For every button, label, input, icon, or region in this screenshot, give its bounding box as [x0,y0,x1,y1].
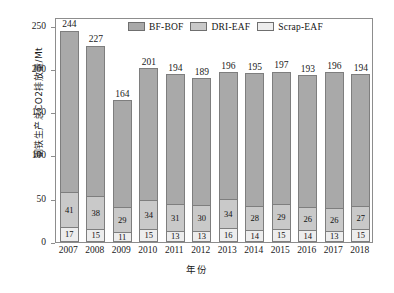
bar-column[interactable]: 1943113 [166,74,185,242]
bar-segment-label: 34 [224,210,233,219]
bar-total-label: 195 [248,63,262,73]
bar-total-label: 194 [354,64,368,74]
legend-label: DRI-EAF [211,22,250,32]
bar-column[interactable]: 1893013 [192,78,211,242]
bar-segment-bf-bof [272,72,291,204]
bar-segment-bf-bof [139,68,158,200]
legend-label: Scrap-EAF [278,22,323,32]
bar-segment-dri-eaf: 29 [113,207,132,232]
co2-emissions-stacked-bar-chart: 钢铁生产总CO2排放量/Mt 050100150200250 244411722… [0,0,394,293]
bar-segment-dri-eaf: 30 [192,205,211,231]
bar-column[interactable]: 1952814 [245,73,264,242]
bar-total-label: 196 [221,62,235,72]
bar-segment-scrap-eaf: 15 [272,229,291,242]
bar-segment-dri-eaf: 27 [351,206,370,229]
bar-segment-label: 31 [171,214,180,223]
bar-series-container: 2444117227381516429112013415194311318930… [56,19,372,242]
bar-segment-scrap-eaf: 11 [113,232,132,242]
x-tick-label: 2011 [165,246,184,256]
legend-swatch-icon [257,22,274,31]
bar-segment-label: 28 [251,214,260,223]
bar-segment-label: 34 [145,211,154,220]
bar-stack: 2911 [113,100,132,242]
legend-swatch-icon [190,22,207,31]
bar-segment-dri-eaf: 28 [245,206,264,230]
legend-item-bf-bof: BF-BOF [128,22,183,32]
bar-column[interactable]: 1962613 [325,72,344,242]
bar-segment-scrap-eaf: 16 [219,228,238,242]
bar-segment-dri-eaf: 26 [298,207,317,230]
bar-total-label: 194 [168,64,182,74]
bar-segment-scrap-eaf: 14 [245,230,264,242]
bar-total-label: 244 [62,20,76,30]
bar-column[interactable]: 1972915 [272,72,291,242]
bar-segment-dri-eaf: 41 [60,192,79,227]
x-tick-label: 2018 [350,246,369,256]
bar-segment-label: 15 [357,231,366,240]
bar-segment-scrap-eaf: 15 [351,229,370,242]
bar-column[interactable]: 1942715 [351,74,370,242]
y-tick-mark [51,243,55,244]
x-axis-title: 年份 [0,262,394,276]
bar-segment-label: 13 [330,232,339,241]
bar-stack: 2614 [298,75,317,242]
bar-stack: 3815 [86,46,105,242]
x-tick-label: 2014 [244,246,263,256]
legend-item-scrap-eaf: Scrap-EAF [257,22,323,32]
bar-segment-label: 15 [92,231,101,240]
bar-segment-dri-eaf: 38 [86,196,105,229]
x-tick-label: 2008 [85,246,104,256]
bar-stack: 4117 [60,31,79,242]
y-tick-label: 200 [0,65,46,75]
bar-segment-label: 13 [171,232,180,241]
bar-column[interactable]: 1932614 [298,75,317,242]
bar-segment-bf-bof [60,31,79,192]
bar-segment-dri-eaf: 34 [139,200,158,229]
bar-segment-label: 14 [251,232,260,241]
bar-segment-label: 30 [198,214,207,223]
legend-swatch-icon [128,22,145,31]
bar-segment-bf-bof [192,78,211,204]
bar-segment-scrap-eaf: 13 [325,231,344,242]
bar-stack: 2814 [245,73,264,242]
bar-segment-label: 15 [277,231,286,240]
bar-segment-bf-bof [219,72,238,198]
bar-segment-label: 29 [118,216,127,225]
bar-total-label: 193 [301,65,315,75]
bar-segment-label: 13 [198,232,207,241]
x-tick-label: 2009 [112,246,131,256]
chart-legend: BF-BOFDRI-EAFScrap-EAF [128,20,323,33]
bar-segment-label: 15 [145,231,154,240]
bar-segment-label: 29 [277,213,286,222]
bar-segment-label: 41 [65,206,74,215]
bar-segment-bf-bof [351,74,370,206]
bar-segment-scrap-eaf: 13 [166,231,185,242]
bar-segment-bf-bof [298,75,317,207]
bar-column[interactable]: 2444117 [60,31,79,242]
bar-stack: 3416 [219,72,238,242]
bar-segment-label: 26 [330,216,339,225]
bar-column[interactable]: 2273815 [86,46,105,242]
bar-total-label: 196 [327,62,341,72]
bar-column[interactable]: 2013415 [139,68,158,242]
bar-segment-bf-bof [113,100,132,207]
y-tick-label: 150 [0,108,46,118]
bar-column[interactable]: 1642911 [113,100,132,242]
bar-segment-scrap-eaf: 14 [298,230,317,242]
plot-area: 2444117227381516429112013415194311318930… [55,18,373,243]
y-tick-label: 0 [0,238,46,248]
x-tick-label: 2015 [271,246,290,256]
bar-segment-bf-bof [166,74,185,204]
x-tick-label: 2007 [59,246,78,256]
bar-segment-dri-eaf: 34 [219,199,238,228]
y-tick-label: 100 [0,152,46,162]
bar-column[interactable]: 1963416 [219,72,238,242]
bar-segment-label: 26 [304,215,313,224]
x-tick-label: 2010 [138,246,157,256]
bar-segment-scrap-eaf: 15 [86,229,105,242]
y-tick-label: 250 [0,22,46,32]
bar-total-label: 197 [274,61,288,71]
bar-total-label: 201 [142,58,156,68]
x-tick-label: 2012 [191,246,210,256]
bar-segment-label: 27 [357,214,366,223]
